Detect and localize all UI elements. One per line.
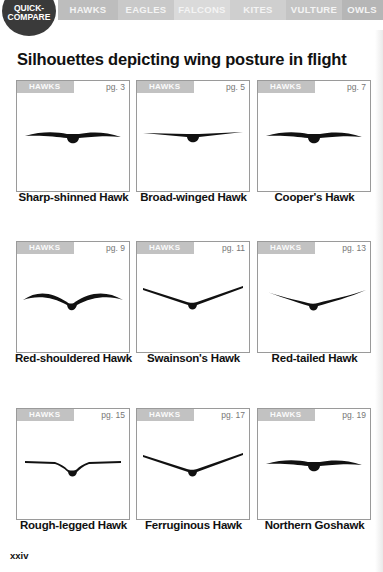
species-card[interactable]: HAWKSpg. 9 (16, 241, 130, 353)
tab-hawks[interactable]: HAWKS (58, 0, 118, 20)
category-tag: HAWKS (258, 242, 315, 254)
page-reference: pg. 3 (106, 81, 125, 93)
page-reference: pg. 15 (101, 409, 125, 421)
page-title: Silhouettes depicting wing posture in fl… (17, 50, 346, 69)
category-tag: HAWKS (137, 81, 194, 93)
category-tag: HAWKS (258, 81, 315, 93)
species-card[interactable]: HAWKSpg. 3 (16, 80, 130, 192)
bird-silhouette-icon (17, 103, 129, 173)
species-card[interactable]: HAWKSpg. 11 (136, 241, 250, 353)
category-tag: HAWKS (17, 81, 74, 93)
quick-compare-line2: COMPARE (2, 13, 56, 22)
bird-silhouette-icon (137, 103, 249, 173)
tab-falcons[interactable]: FALCONS (174, 0, 230, 20)
species-card[interactable]: HAWKSpg. 15 (16, 408, 130, 520)
species-name: Red-tailed Hawk (252, 352, 377, 364)
bird-silhouette-icon (137, 431, 249, 501)
category-tag: HAWKS (17, 409, 74, 421)
page-reference: pg. 17 (221, 409, 245, 421)
category-tag: HAWKS (258, 409, 315, 421)
species-card[interactable]: HAWKSpg. 19 (257, 408, 371, 520)
bird-silhouette-icon (137, 264, 249, 334)
species-name: Swainson's Hawk (131, 352, 256, 364)
category-tag: HAWKS (137, 409, 194, 421)
page-reference: pg. 11 (222, 242, 245, 254)
page-edge-shadow (375, 30, 383, 572)
species-name: Sharp-shinned Hawk (11, 191, 136, 203)
species-card[interactable]: HAWKSpg. 7 (257, 80, 371, 192)
section-tab-bar: HAWKS EAGLES FALCONS KITES VULTURE OWLS (0, 0, 383, 20)
tab-owls[interactable]: OWLS (342, 0, 383, 20)
page-number: xxiv (10, 550, 29, 561)
species-name: Cooper's Hawk (252, 191, 377, 203)
tab-eagles[interactable]: EAGLES (118, 0, 174, 20)
species-card[interactable]: HAWKSpg. 5 (136, 80, 250, 192)
category-tag: HAWKS (137, 242, 194, 254)
page-reference: pg. 5 (226, 81, 245, 93)
species-name: Rough-legged Hawk (11, 519, 136, 531)
bird-silhouette-icon (17, 431, 129, 501)
page-reference: pg. 19 (342, 409, 366, 421)
category-tag: HAWKS (17, 242, 74, 254)
page-reference: pg. 9 (106, 242, 125, 254)
species-card[interactable]: HAWKSpg. 17 (136, 408, 250, 520)
bird-silhouette-icon (258, 264, 370, 334)
species-name: Broad-winged Hawk (131, 191, 256, 203)
quick-compare-badge[interactable]: QUICK- COMPARE (2, 0, 56, 36)
page-reference: pg. 7 (347, 81, 366, 93)
species-name: Northern Goshawk (252, 519, 377, 531)
tab-kites[interactable]: KITES (230, 0, 286, 20)
species-card[interactable]: HAWKSpg. 13 (257, 241, 371, 353)
bird-silhouette-icon (17, 264, 129, 334)
species-name: Ferruginous Hawk (131, 519, 256, 531)
page-reference: pg. 13 (342, 242, 366, 254)
bird-silhouette-icon (258, 431, 370, 501)
bird-silhouette-icon (258, 103, 370, 173)
species-name: Red-shouldered Hawk (11, 352, 136, 364)
tab-vulture[interactable]: VULTURE (286, 0, 342, 20)
